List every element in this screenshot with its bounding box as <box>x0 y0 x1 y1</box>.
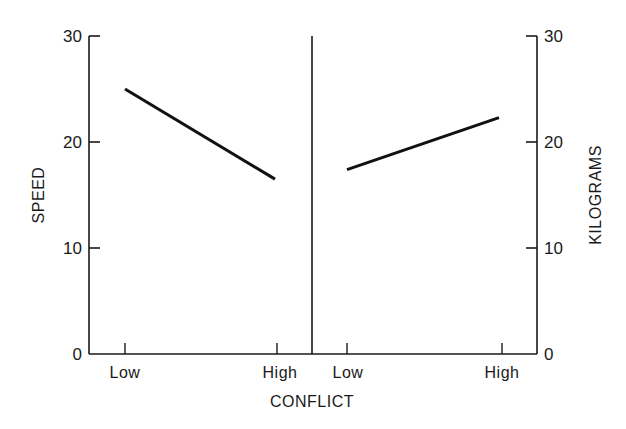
right-tick-30: 30 <box>544 27 563 46</box>
left-tick-10: 10 <box>63 239 82 258</box>
right-cat-high: High <box>485 364 520 381</box>
left-cat-low: Low <box>110 364 141 381</box>
right-cat-low: Low <box>333 364 364 381</box>
left-tick-20: 20 <box>63 133 82 152</box>
right-y-ticks <box>526 36 537 248</box>
left-y-axis-title: SPEED <box>30 167 47 224</box>
right-tick-0: 0 <box>544 345 553 364</box>
speed-line <box>125 89 275 179</box>
right-y-axis-title: KILOGRAMS <box>587 145 604 245</box>
left-y-ticks <box>89 36 100 248</box>
left-y-tick-labels: 0 10 20 30 <box>63 27 82 364</box>
x-axis-title: CONFLICT <box>270 393 354 410</box>
axes-frame <box>89 36 537 354</box>
x-ticks <box>125 343 502 354</box>
category-labels: Low High Low High <box>110 364 520 381</box>
left-tick-30: 30 <box>63 27 82 46</box>
right-tick-20: 20 <box>544 133 563 152</box>
left-cat-high: High <box>263 364 298 381</box>
right-y-tick-labels: 0 10 20 30 <box>544 27 563 364</box>
kilograms-line <box>347 118 499 170</box>
left-tick-0: 0 <box>73 345 82 364</box>
conflict-chart: 0 10 20 30 0 10 20 30 SPEED KILOGRAMS CO… <box>0 0 626 429</box>
right-tick-10: 10 <box>544 239 563 258</box>
